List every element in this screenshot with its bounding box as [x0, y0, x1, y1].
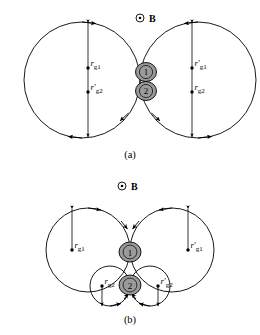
panel-a-label-right-upper: r′g1: [195, 58, 208, 71]
panel-a: 1 2 B rg1 r′g2 r′g1: [24, 13, 256, 162]
panel-a-caption: (a): [124, 149, 136, 161]
panel-b: 1 2 B rg1 rg2 r′g2: [46, 181, 214, 327]
panel-b-large-orbit-direction-arrows: [88, 208, 172, 229]
svg-text:r′g2: r′g2: [91, 82, 104, 95]
panel-b-right-small-center-dot: [156, 284, 159, 287]
panel-a-label-left-upper-subscript: g1: [94, 63, 102, 71]
panel-b-label-outer-left-subscript: g1: [78, 245, 86, 253]
svg-text:rg1: rg1: [75, 240, 86, 253]
panel-a-right-orbit-direction-arrows: [152, 22, 213, 138]
panel-b-magnetic-field-symbol: B: [118, 181, 138, 192]
panel-a-label-left-lower: r′g2: [91, 82, 104, 95]
panel-a-label-right-lower-subscript: g2: [198, 87, 206, 95]
panel-a-particle-2: 2: [136, 82, 157, 101]
panel-b-right-large-center-dot: [186, 248, 189, 251]
panel-a-right-upper-center-dot: [190, 66, 193, 69]
panel-a-left-orbit-direction-arrows: [68, 22, 129, 138]
panel-b-caption: (b): [124, 314, 137, 326]
panel-a-label-right-lower: rg2: [195, 82, 206, 95]
svg-text:r′g1: r′g1: [195, 58, 208, 71]
svg-text:rg2: rg2: [195, 82, 206, 95]
svg-text:rg2: rg2: [105, 276, 116, 289]
panel-a-right-orbit-circle: [140, 22, 256, 138]
panel-a-field-label: B: [149, 13, 156, 24]
panel-a-particle-2-label: 2: [144, 86, 149, 96]
svg-text:r′g1: r′g1: [191, 240, 204, 253]
panel-a-label-left-lower-subscript: g2: [96, 87, 104, 95]
panel-b-label-outer-right: r′g1: [191, 240, 204, 253]
panel-b-left-large-center-dot: [70, 248, 73, 251]
panel-a-label-right-upper-subscript: g1: [200, 63, 208, 71]
panel-a-left-upper-center-dot: [86, 66, 89, 69]
panel-b-particle-1: 1: [119, 242, 141, 262]
gyro-orbit-figure: 1 2 B rg1 r′g2 r′g1: [0, 0, 260, 335]
panel-b-label-inner-right: r′g2: [161, 276, 174, 289]
panel-b-left-large-orbit-circle: [46, 208, 130, 292]
panel-a-particle-1-label: 1: [144, 67, 149, 77]
panel-b-label-inner-left-subscript: g2: [108, 281, 116, 289]
panel-a-label-left-upper: rg1: [91, 58, 102, 71]
panel-b-label-inner-right-subscript: g2: [166, 281, 174, 289]
panel-b-label-inner-left: rg2: [105, 276, 116, 289]
panel-b-particle-2-label: 2: [128, 281, 133, 291]
panel-a-left-lower-center-dot: [86, 90, 89, 93]
panel-a-field-out-of-page-dot-icon: [139, 17, 142, 20]
panel-b-field-out-of-page-dot-icon: [121, 185, 124, 188]
panel-b-particle-2: 2: [119, 275, 141, 295]
svg-text:rg1: rg1: [91, 58, 102, 71]
svg-text:r′g2: r′g2: [161, 276, 174, 289]
panel-b-left-small-center-dot: [100, 284, 103, 287]
panel-a-magnetic-field-symbol: B: [136, 13, 156, 24]
panel-a-left-orbit-circle: [24, 22, 140, 138]
panel-b-particle-1-label: 1: [128, 248, 133, 258]
panel-a-right-lower-center-dot: [190, 90, 193, 93]
panel-b-label-outer-right-subscript: g1: [196, 245, 204, 253]
panel-a-particle-1: 1: [136, 63, 157, 82]
panel-b-label-outer-left: rg1: [75, 240, 86, 253]
panel-b-field-label: B: [131, 181, 138, 192]
